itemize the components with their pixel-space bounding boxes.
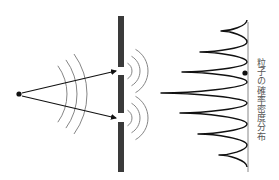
incident-wavefronts bbox=[58, 54, 87, 134]
barrier-segment bbox=[118, 75, 124, 113]
detected-particle-dot bbox=[242, 70, 247, 75]
particle-paths bbox=[22, 71, 116, 118]
path-arrow bbox=[22, 96, 116, 118]
diffracted-arc bbox=[128, 63, 132, 79]
barrier-segment bbox=[118, 122, 124, 172]
wavefront-arc bbox=[74, 54, 87, 134]
wavefront-arc bbox=[58, 66, 67, 122]
double-slit-barrier bbox=[118, 16, 124, 172]
diffracted-arc bbox=[136, 49, 148, 92]
probability-density-label: 粒子の確率密度分布 bbox=[254, 58, 268, 141]
diffracted-wavefronts bbox=[128, 49, 148, 139]
diffracted-arc bbox=[132, 103, 140, 132]
diffracted-arc bbox=[128, 110, 132, 126]
barrier-segment bbox=[118, 16, 124, 67]
diffracted-arc bbox=[132, 56, 140, 85]
wavefront-arc bbox=[66, 60, 77, 128]
particle-source bbox=[16, 91, 21, 96]
diffracted-arc bbox=[136, 96, 148, 139]
path-arrow bbox=[22, 71, 116, 93]
probability-density-curve bbox=[161, 20, 247, 167]
double-slit-diagram: 粒子の確率密度分布 bbox=[0, 0, 279, 180]
diagram-canvas bbox=[0, 0, 279, 180]
